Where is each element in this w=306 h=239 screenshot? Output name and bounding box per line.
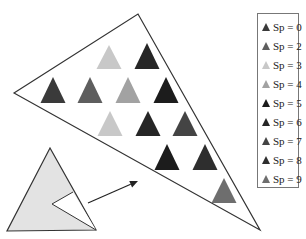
triangle-marker-icon (78, 77, 103, 103)
triangle-marker-icon (262, 99, 270, 107)
triangle-marker-icon (97, 45, 122, 69)
legend-label: Sp = 2 (273, 40, 302, 52)
triangle-marker-icon (98, 111, 123, 136)
legend-item: Sp = 4 (258, 74, 298, 93)
triangle-marker-icon (154, 77, 179, 103)
legend-item: Sp = 5 (258, 93, 298, 112)
triangle-marker-icon (155, 144, 180, 170)
legend-item: Sp = 6 (258, 112, 298, 131)
legend-label: Sp = 8 (273, 154, 302, 166)
triangle-marker-icon (41, 77, 66, 103)
triangle-marker-icon (262, 61, 270, 69)
legend: Sp = 0 Sp = 2 Sp = 3 Sp = 4 Sp = 5 Sp = … (257, 13, 299, 188)
legend-item: Sp = 2 (258, 36, 298, 55)
legend-item: Sp = 9 (258, 169, 298, 188)
triangle-marker-icon (136, 111, 161, 136)
triangle-marker-icon (262, 156, 270, 164)
triangle-marker-icon (116, 77, 141, 103)
legend-item: Sp = 3 (258, 55, 298, 74)
legend-label: Sp = 9 (273, 173, 302, 185)
legend-label: Sp = 3 (273, 59, 302, 71)
legend-item: Sp = 7 (258, 131, 298, 150)
legend-label: Sp = 5 (273, 97, 302, 109)
legend-item: Sp = 8 (258, 150, 298, 169)
triangle-marker-icon (262, 118, 270, 126)
triangle-marker-icon (173, 111, 198, 136)
triangle-marker-icon (262, 137, 270, 145)
triangle-marker-icon (135, 43, 160, 69)
legend-item: Sp = 0 (258, 17, 298, 36)
legend-label: Sp = 7 (273, 135, 302, 147)
legend-label: Sp = 4 (273, 78, 302, 90)
arrow-icon (88, 184, 131, 203)
legend-label: Sp = 0 (273, 21, 302, 33)
triangle-marker-icon (262, 80, 270, 88)
triangle-marker-icon (262, 23, 270, 31)
triangle-marker-icon (262, 175, 270, 183)
triangle-marker-icon (262, 42, 270, 50)
legend-label: Sp = 6 (273, 116, 302, 128)
marker-group (41, 43, 237, 203)
